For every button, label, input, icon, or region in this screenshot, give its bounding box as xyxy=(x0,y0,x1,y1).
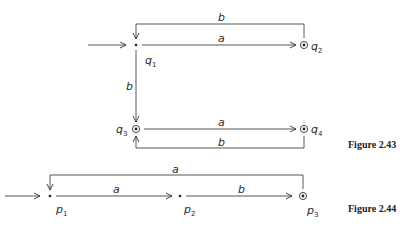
state-q1-dot xyxy=(135,44,138,47)
edge-label-p3-p1: a xyxy=(172,163,179,176)
edge-label-q4-q3: b xyxy=(218,136,225,149)
label-q2: q2 xyxy=(311,40,322,55)
edge-label-q1-q2: a xyxy=(218,32,225,45)
label-q1: q1 xyxy=(145,54,156,69)
figure-caption-2-43: Figure 2.43 xyxy=(348,139,396,150)
state-q3-accepting xyxy=(132,125,139,132)
state-q4-accepting xyxy=(300,125,307,132)
edge-p3-p1-a xyxy=(50,175,303,190)
state-p3-accepting xyxy=(299,192,306,199)
figure-caption-2-44: Figure 2.44 xyxy=(348,203,396,214)
label-q4: q4 xyxy=(311,123,323,138)
edge-label-q1-q3: b xyxy=(126,80,133,93)
label-p1: p1 xyxy=(55,203,67,218)
label-q3: q3 xyxy=(116,123,127,138)
state-p1-dot xyxy=(49,195,52,198)
state-q2-accepting xyxy=(300,41,307,48)
automata-diagram: q1 q2 q3 q4 p1 p2 p3 b a b a b a a b xyxy=(0,0,418,226)
edge-label-q3-q4: a xyxy=(218,116,225,129)
edge-label-q2-q1: b xyxy=(218,11,225,24)
label-p2: p2 xyxy=(183,203,195,218)
state-p2-dot xyxy=(179,195,182,198)
label-p3: p3 xyxy=(306,204,318,219)
edge-label-p2-p3: b xyxy=(238,183,245,196)
edge-label-p1-p2: a xyxy=(113,183,120,196)
